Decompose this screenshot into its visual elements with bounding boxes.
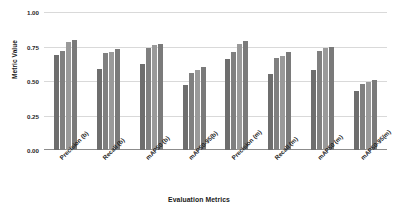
- y-axis-tick-label: 0.75: [3, 43, 39, 50]
- bar-group: [173, 12, 216, 150]
- bar: [231, 52, 236, 150]
- x-axis-title: Evaluation Metrics: [0, 196, 398, 203]
- plot-area: 0.000.250.500.751.00: [44, 12, 387, 150]
- bar: [237, 44, 242, 150]
- bar-group: [301, 12, 344, 150]
- bar: [274, 58, 279, 150]
- bar: [366, 82, 371, 150]
- bar: [225, 59, 230, 150]
- bar: [109, 52, 114, 150]
- bar: [311, 70, 316, 150]
- bar: [323, 48, 328, 150]
- bar-group: [258, 12, 301, 150]
- bar: [354, 91, 359, 150]
- bar: [286, 52, 291, 150]
- bar-chart: Metric Value 0.000.250.500.751.00 Precis…: [0, 0, 398, 212]
- bar: [146, 48, 151, 150]
- bar: [243, 41, 248, 150]
- bar: [158, 44, 163, 150]
- bar: [317, 51, 322, 150]
- y-axis-title: Metric Value: [11, 20, 18, 100]
- bar: [189, 73, 194, 150]
- bar-group: [130, 12, 173, 150]
- bar: [60, 51, 65, 150]
- x-axis-tick-labels: Precision (b)Recall (b)mAP50 (b)mAP50-95…: [44, 152, 387, 198]
- y-axis-tick-label: 0.00: [3, 147, 39, 154]
- bar: [152, 45, 157, 150]
- bar: [195, 70, 200, 150]
- y-axis-tick-label: 1.00: [3, 9, 39, 16]
- bar: [360, 84, 365, 150]
- bar: [140, 64, 145, 150]
- bar: [97, 69, 102, 150]
- bar: [183, 85, 188, 150]
- bar-group: [344, 12, 387, 150]
- bar: [66, 42, 71, 150]
- y-axis-tick-label: 0.25: [3, 112, 39, 119]
- bar: [329, 47, 334, 151]
- bar-group: [44, 12, 87, 150]
- bar: [103, 53, 108, 150]
- bar-group: [87, 12, 130, 150]
- y-axis-tick-label: 0.50: [3, 78, 39, 85]
- bar-groups: [44, 12, 387, 150]
- bar-group: [216, 12, 259, 150]
- bar: [280, 56, 285, 150]
- bar: [268, 74, 273, 150]
- bar: [115, 49, 120, 150]
- bar: [54, 55, 59, 150]
- bar: [72, 40, 77, 150]
